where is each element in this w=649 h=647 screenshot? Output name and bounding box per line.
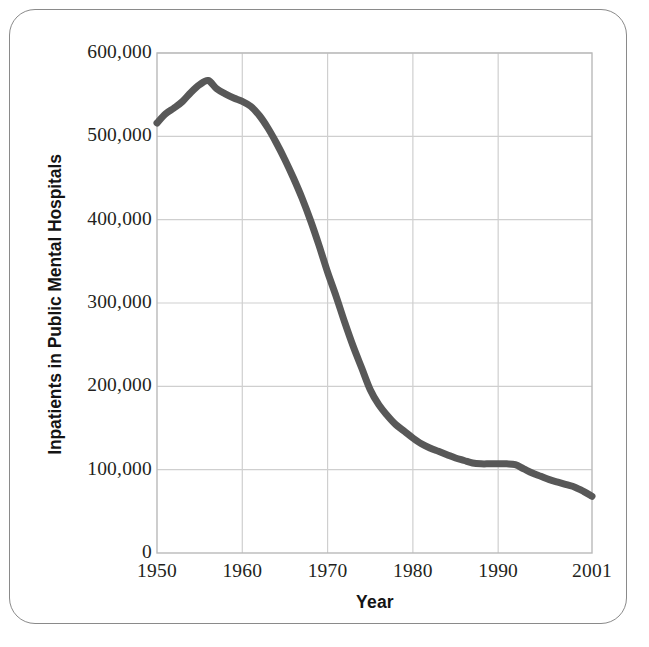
x-tick-label: 1990 <box>458 560 538 582</box>
x-tick-label: 2001 <box>552 560 632 582</box>
x-axis-title: Year <box>157 592 593 613</box>
x-tick-label: 1950 <box>117 560 197 582</box>
x-axis-tick-labels: 195019601970198019902001 <box>0 0 649 647</box>
x-tick-label: 1960 <box>202 560 282 582</box>
line-chart-figure: 0100,000200,000300,000400,000500,000600,… <box>0 0 649 647</box>
x-tick-label: 1980 <box>373 560 453 582</box>
y-axis-title: Inpatients in Public Mental Hospitals <box>45 95 66 515</box>
x-tick-label: 1970 <box>288 560 368 582</box>
